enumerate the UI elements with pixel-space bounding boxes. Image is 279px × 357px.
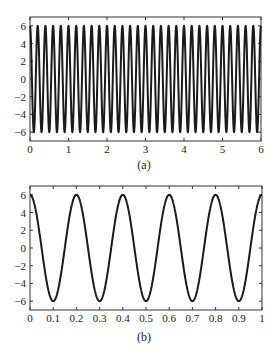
x-tick-label: 0: [27, 312, 33, 324]
y-tick-label: −6: [14, 295, 26, 307]
y-tick-label: −4: [14, 277, 26, 289]
panel-b-plot: 00.10.20.30.40.50.60.70.80.91−6−4−20246: [14, 186, 264, 324]
x-tick-label: 0.1: [46, 312, 60, 324]
x-tick-label: 4: [181, 143, 187, 155]
panel-a-plot: 0123456−6−4−20246: [14, 17, 264, 155]
x-tick-label: 0.6: [162, 312, 176, 324]
x-tick-label: 1: [259, 312, 265, 324]
y-tick-label: 0: [21, 242, 27, 254]
x-tick-label: 0.7: [186, 312, 200, 324]
caption-a: (a): [137, 158, 150, 172]
x-tick-label: 3: [143, 143, 149, 155]
y-tick-label: 4: [21, 38, 27, 50]
y-tick-label: 0: [21, 73, 27, 85]
x-tick-label: 6: [258, 143, 264, 155]
y-tick-label: 2: [21, 55, 27, 67]
y-tick-label: −2: [14, 91, 26, 103]
x-tick-label: 1: [66, 143, 72, 155]
signal-line: [30, 195, 262, 301]
x-tick-label: 0.8: [209, 312, 223, 324]
x-tick-label: 5: [220, 143, 226, 155]
x-tick-label: 0.9: [232, 312, 246, 324]
signal-line: [30, 26, 261, 132]
chart-figure: 0123456−6−4−20246 00.10.20.30.40.50.60.7…: [0, 0, 279, 357]
y-tick-label: 4: [21, 207, 27, 219]
x-tick-label: 2: [104, 143, 110, 155]
y-tick-label: 2: [21, 224, 27, 236]
x-tick-label: 0.4: [116, 312, 130, 324]
y-tick-label: −2: [14, 260, 26, 272]
x-tick-label: 0.5: [139, 312, 153, 324]
x-tick-label: 0: [27, 143, 33, 155]
y-tick-label: −4: [14, 108, 26, 120]
y-tick-label: 6: [21, 189, 27, 201]
caption-b: (b): [137, 330, 151, 344]
y-tick-label: −6: [14, 126, 26, 138]
x-tick-label: 0.3: [93, 312, 107, 324]
x-tick-label: 0.2: [70, 312, 84, 324]
y-tick-label: 6: [21, 20, 27, 32]
